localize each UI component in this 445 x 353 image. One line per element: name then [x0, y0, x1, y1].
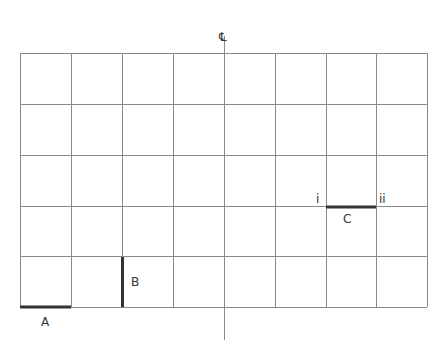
- label-b: B: [131, 276, 139, 288]
- grid-lines: [20, 53, 428, 308]
- label-c: C: [343, 213, 351, 225]
- label-c-end: ii: [379, 193, 386, 205]
- label-c-start: i: [316, 193, 319, 205]
- grid-diagram: [0, 0, 445, 353]
- centerline-symbol: ℄: [219, 31, 227, 43]
- label-a: A: [41, 316, 49, 328]
